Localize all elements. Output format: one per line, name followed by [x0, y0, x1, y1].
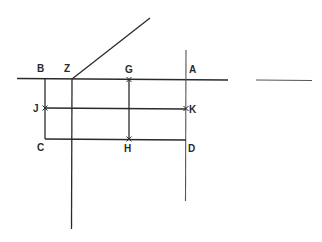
label-a: A: [189, 64, 196, 75]
label-b: B: [37, 63, 44, 74]
line-j-k: [45, 108, 186, 109]
line-c-d: [45, 139, 186, 140]
line-a-d-vertical: [186, 50, 187, 201]
label-j: J: [33, 103, 39, 114]
label-g: G: [125, 64, 133, 75]
line-detached-right: [256, 80, 312, 81]
line-diagonal-from-z: [72, 18, 150, 79]
label-d: D: [188, 143, 195, 154]
geometry-diagram: B Z G A J K C H D: [0, 0, 322, 242]
label-k: K: [189, 104, 197, 115]
label-z: Z: [64, 63, 70, 74]
label-h: H: [124, 143, 131, 154]
label-c: C: [37, 142, 44, 153]
line-top-horizontal: [17, 79, 228, 81]
line-z-vertical: [72, 79, 73, 229]
